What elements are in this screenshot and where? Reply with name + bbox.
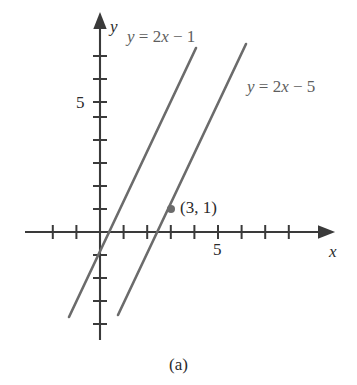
y-axis-tick-label-5: 5 [76,94,85,111]
line-y-equals-2x-minus-5 [118,44,246,315]
y-axis-label: y [110,18,118,35]
point-coordinate-label: (3, 1) [180,199,217,216]
line-y-equals-2x-minus-1 [69,48,196,317]
equation-label-line-2x-minus-5: y = 2x − 5 [247,78,315,95]
coordinate-plane-graph [0,0,357,385]
figure-caption: (a) [0,355,357,375]
x-axis-tick-label-5: 5 [213,241,222,258]
figure-container: y x 5 5 y = 2x − 1 y = 2x − 5 (3, 1) (a) [0,0,357,385]
equation-label-line-2x-minus-1: y = 2x − 1 [127,28,195,45]
x-axis-label: x [329,243,337,260]
point-marker-3-1 [167,205,175,213]
